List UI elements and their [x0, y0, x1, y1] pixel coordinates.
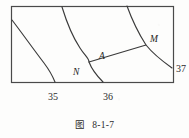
figure-container: A M N 35 36 37 图8-1-7 [0, 0, 189, 138]
segment-a-to-m [89, 45, 146, 62]
contour-value-37: 37 [176, 64, 186, 74]
diagram-frame [12, 7, 174, 83]
contour-value-35: 35 [48, 92, 58, 102]
contour-line-35 [12, 20, 55, 82]
figure-caption-number: 8-1-7 [92, 120, 114, 130]
point-label-n: N [73, 68, 79, 78]
figure-caption-word: 图 [75, 120, 86, 130]
contour-line-36 [62, 7, 103, 82]
contour-value-36: 36 [103, 92, 113, 102]
point-label-m: M [150, 35, 158, 45]
point-label-a: A [99, 52, 105, 62]
figure-caption: 图8-1-7 [0, 117, 189, 131]
